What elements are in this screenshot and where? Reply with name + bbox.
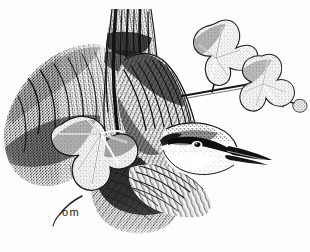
nuthatch-ink-drawing — [0, 0, 310, 252]
paper-vignette — [0, 0, 310, 252]
artist-signature: om — [62, 206, 80, 218]
illustration-canvas: om — [0, 0, 310, 252]
